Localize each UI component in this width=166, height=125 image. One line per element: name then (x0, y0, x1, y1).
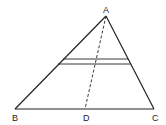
label-d: D (83, 113, 90, 123)
label-c: C (152, 113, 159, 123)
side-ab (15, 16, 106, 109)
label-a: A (103, 5, 109, 15)
segment-ad (85, 16, 106, 109)
label-b: B (12, 113, 18, 123)
side-ac (106, 16, 154, 109)
triangle-diagram: A B C D (0, 0, 166, 125)
